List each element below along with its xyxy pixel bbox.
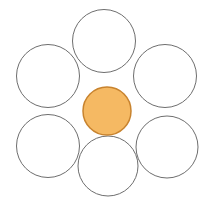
satellite-circle-bottom — [78, 136, 138, 196]
center-circle-highlighted — [83, 87, 131, 135]
hexagonal-circle-packing-diagram — [0, 0, 214, 201]
center-circle-group — [83, 87, 131, 135]
satellite-circle-top — [73, 10, 136, 73]
figure-root — [0, 0, 214, 201]
satellite-circle-lower-left — [17, 115, 80, 178]
satellite-circle-upper-left — [17, 45, 80, 108]
satellite-circle-upper-right — [134, 45, 197, 108]
satellite-circle-lower-right — [136, 116, 198, 178]
